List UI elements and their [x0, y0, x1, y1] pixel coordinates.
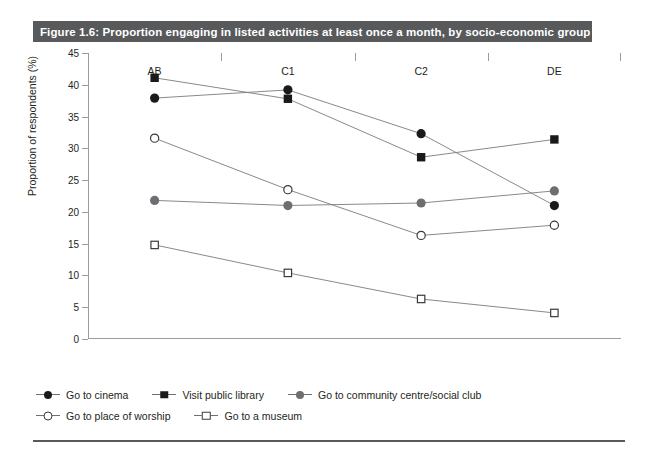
y-tick-label-10: 10	[68, 270, 79, 281]
y-tick-label-15: 15	[68, 238, 79, 249]
y-tick-10	[82, 275, 88, 276]
legend-marker-square-open-icon	[194, 410, 218, 422]
figure-title-bar: Figure 1.6: Proportion engaging in liste…	[33, 21, 592, 42]
legend-row-1: Go to cinemaVisit public libraryGo to co…	[36, 384, 621, 405]
x-tick-divider-end	[620, 53, 621, 61]
y-tick-label-30: 30	[68, 143, 79, 154]
legend-item-go-to-a-museum[interactable]: Go to a museum	[194, 410, 302, 422]
y-tick-label-20: 20	[68, 206, 79, 217]
legend-label: Go to a museum	[224, 410, 302, 422]
x-tick-label-de: DE	[547, 65, 562, 77]
y-tick-label-5: 5	[73, 302, 79, 313]
legend-marker-square-filled-icon	[152, 389, 176, 401]
legend-label: Go to place of worship	[66, 410, 170, 422]
x-tick-label-c1: C1	[281, 65, 294, 77]
x-tick-divider-2	[355, 53, 356, 61]
y-tick-15	[82, 244, 88, 245]
y-tick-label-40: 40	[68, 79, 79, 90]
y-tick-20	[82, 212, 88, 213]
y-tick-label-25: 25	[68, 175, 79, 186]
y-tick-5	[82, 307, 88, 308]
legend-item-go-to-cinema[interactable]: Go to cinema	[36, 389, 128, 401]
x-tick-label-ab: AB	[148, 65, 162, 77]
footer-rule	[33, 440, 625, 442]
legend-label: Go to cinema	[66, 389, 128, 401]
legend-item-go-to-community-centre-social-club[interactable]: Go to community centre/social club	[288, 389, 481, 401]
legend-item-visit-public-library[interactable]: Visit public library	[152, 389, 264, 401]
y-tick-35	[82, 117, 88, 118]
y-tick-30	[82, 148, 88, 149]
y-tick-40	[82, 85, 88, 86]
legend-marker-circle-gray-icon	[288, 389, 312, 401]
legend-marker-circle-filled-icon	[36, 389, 60, 401]
plot-area: 051015202530354045 ABC1C2DE	[88, 53, 621, 339]
x-tick-label-c2: C2	[414, 65, 427, 77]
y-axis-title: Proportion of respondents (%)	[26, 56, 38, 196]
x-tick-divider-1	[221, 53, 222, 61]
chart-legend: Go to cinemaVisit public libraryGo to co…	[36, 384, 621, 426]
legend-item-go-to-place-of-worship[interactable]: Go to place of worship	[36, 410, 170, 422]
x-tick-divider-3	[488, 53, 489, 61]
y-tick-label-45: 45	[68, 48, 79, 59]
legend-label: Go to community centre/social club	[318, 389, 481, 401]
y-tick-45	[82, 53, 88, 54]
y-tick-25	[82, 180, 88, 181]
y-tick-0	[82, 339, 88, 340]
y-tick-label-35: 35	[68, 111, 79, 122]
legend-label: Visit public library	[182, 389, 264, 401]
legend-marker-circle-open-icon	[36, 410, 60, 422]
legend-row-2: Go to place of worshipGo to a museum	[36, 405, 621, 426]
y-tick-label-0: 0	[73, 334, 79, 345]
page-title: Figure 1.6: Proportion engaging in liste…	[33, 26, 590, 38]
